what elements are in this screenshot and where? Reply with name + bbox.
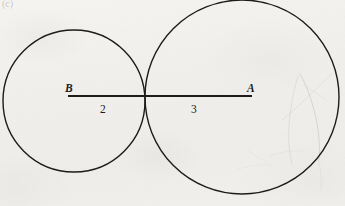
corner-part-label: (c)	[2, 0, 13, 9]
geometry-drawing	[0, 0, 345, 206]
figure-canvas: B A 2 3 (c)	[0, 0, 345, 206]
point-label-b: B	[65, 83, 73, 95]
length-label-left: 2	[100, 104, 106, 116]
length-label-right: 3	[191, 104, 197, 116]
left-circle	[3, 30, 145, 172]
point-label-a: A	[247, 83, 255, 95]
